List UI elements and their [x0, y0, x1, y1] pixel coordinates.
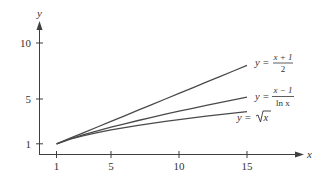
- y-tick-label: 1: [26, 138, 32, 150]
- svg-text:y =: y =: [236, 112, 251, 123]
- y-axis-arrow-icon: [37, 21, 43, 30]
- label-linear: y = x + 1 2: [254, 52, 293, 74]
- svg-text:y =: y =: [254, 91, 269, 102]
- chart: x y 1 5 10 15 1 5 10 y = x + 1 2 y = x −…: [0, 0, 329, 182]
- y-axis-label: y: [36, 7, 42, 19]
- svg-text:x: x: [263, 112, 269, 123]
- x-tick-label: 1: [54, 160, 60, 172]
- curve-linear: [57, 65, 247, 143]
- x-tick-label: 10: [174, 160, 186, 172]
- x-axis-arrow-icon: [295, 152, 304, 158]
- x-tick-label: 15: [242, 160, 254, 172]
- svg-text:y =: y =: [254, 57, 269, 68]
- svg-text:x − 1: x − 1: [272, 85, 292, 95]
- x-axis-label: x: [306, 148, 312, 160]
- label-log-ratio: y = x − 1 ln x: [254, 85, 294, 108]
- svg-text:x + 1: x + 1: [272, 52, 292, 62]
- curve-sqrt: [57, 112, 247, 144]
- x-tick-label: 5: [108, 160, 114, 172]
- y-tick-label: 5: [26, 93, 32, 105]
- y-tick-label: 10: [20, 37, 32, 49]
- svg-text:ln x: ln x: [276, 98, 290, 108]
- svg-text:2: 2: [281, 64, 286, 74]
- curves: [57, 65, 247, 143]
- label-sqrt: y = x: [236, 111, 271, 123]
